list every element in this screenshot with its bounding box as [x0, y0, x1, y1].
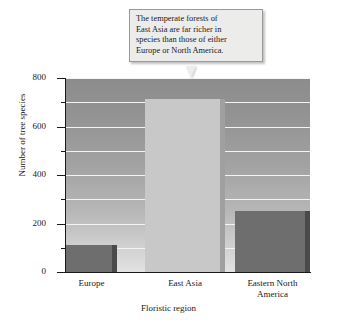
y-tick-major	[57, 175, 65, 176]
annotation-line: East Asia are far richer in	[136, 25, 256, 36]
y-tick-major	[57, 78, 65, 79]
y-tick-major	[57, 272, 65, 273]
y-tick-label: 200	[33, 219, 47, 228]
x-axis-title: Floristic region	[0, 303, 337, 313]
x-category-label-line: Eastern North	[223, 278, 323, 289]
gridline	[66, 78, 310, 79]
bar-east-asia	[145, 99, 225, 272]
y-tick-label: 0	[42, 267, 47, 276]
x-category-label-line: Europe	[42, 278, 142, 289]
x-category-label-line: America	[223, 289, 323, 300]
annotation-line: Europe or North America.	[136, 46, 256, 57]
x-category-label: East Asia	[135, 278, 235, 289]
x-category-label: Eastern NorthAmerica	[223, 278, 323, 299]
bar-europe	[66, 245, 117, 272]
bar-top	[112, 245, 117, 248]
y-axis-ticks	[49, 78, 65, 273]
x-category-label-line: East Asia	[135, 278, 235, 289]
y-tick-minor	[61, 199, 65, 200]
bar-face	[235, 211, 305, 272]
annotation-line: species than those of either	[136, 35, 256, 46]
x-axis-line	[57, 272, 311, 273]
bar-top	[305, 211, 310, 214]
y-tick-major	[57, 127, 65, 128]
bar-face	[66, 245, 112, 272]
y-tick-major	[57, 224, 65, 225]
annotation-callout: The temperate forests of East Asia are f…	[129, 9, 263, 62]
bar-eastern-north-america	[235, 211, 310, 272]
y-tick-minor	[61, 151, 65, 152]
x-category-label: Europe	[42, 278, 142, 289]
plot-area	[66, 78, 310, 272]
y-tick-minor	[61, 248, 65, 249]
bar-side	[220, 102, 225, 272]
annotation-line: The temperate forests of	[136, 14, 256, 25]
bar-side	[112, 248, 117, 272]
bar-face	[145, 99, 220, 272]
y-tick-label: 800	[33, 73, 47, 82]
y-tick-label: 400	[33, 170, 47, 179]
y-tick-minor	[61, 102, 65, 103]
y-tick-label: 600	[33, 122, 47, 131]
bar-top	[220, 99, 225, 102]
annotation-pointer-icon	[186, 66, 196, 78]
bar-side	[305, 214, 310, 272]
y-axis-title: Number of tree species	[17, 65, 27, 205]
